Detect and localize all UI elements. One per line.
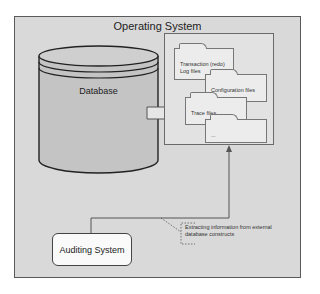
auditing-system-box: Auditing System <box>52 233 132 266</box>
folder-icon <box>210 69 238 75</box>
database: Database <box>39 46 158 172</box>
folder-icon <box>190 92 218 98</box>
files-container: Transaction (redo) Log files Configurati… <box>164 33 274 145</box>
database-label: Database <box>39 86 158 96</box>
folder-icon <box>210 114 238 120</box>
auditing-system-label: Auditing System <box>59 245 124 255</box>
annotation-note: Extracting information from external dat… <box>181 224 275 239</box>
folder-more: ... <box>205 119 267 143</box>
folder-icon <box>179 43 207 49</box>
